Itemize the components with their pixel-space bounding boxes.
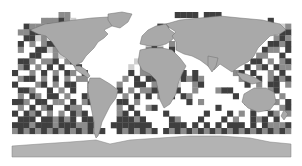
ocean-grid-cell [70, 122, 76, 128]
ocean-grid-cell [186, 93, 192, 99]
ocean-grid-cell [192, 122, 198, 128]
ocean-grid-cell [146, 128, 152, 134]
ocean-grid-cell [233, 122, 239, 128]
ocean-grid-cell [210, 128, 216, 134]
ocean-grid-cell [146, 105, 152, 111]
ocean-grid-cell [186, 99, 192, 105]
ocean-grid-cell [47, 122, 53, 128]
ocean-grid-cell [285, 24, 291, 30]
ocean-grid-cell [24, 111, 30, 117]
ocean-grid-cell [47, 128, 53, 134]
ocean-grid-cell [192, 70, 198, 76]
ocean-grid-cell [24, 116, 30, 122]
ocean-grid-cell [47, 111, 53, 117]
ocean-grid-cell [274, 122, 280, 128]
ocean-grid-cell [285, 122, 291, 128]
ocean-grid-cell [128, 70, 134, 76]
ocean-grid-cell [279, 93, 285, 99]
ocean-grid-cell [279, 64, 285, 70]
ocean-grid-cell [53, 122, 59, 128]
ocean-grid-cell [24, 35, 30, 41]
ocean-grid-cell [256, 64, 262, 70]
ocean-grid-cell [53, 58, 59, 64]
ocean-grid-cell [262, 116, 268, 122]
ocean-grid-cell [262, 64, 268, 70]
ocean-grid-cell [256, 53, 262, 59]
ocean-grid-cell [134, 82, 140, 88]
ocean-grid-cell [198, 82, 204, 88]
ocean-grid-cell [134, 116, 140, 122]
ocean-grid-cell [76, 111, 82, 117]
ocean-grid-cell [70, 111, 76, 117]
ocean-grid-cell [181, 122, 187, 128]
ocean-grid-cell [285, 76, 291, 82]
ocean-grid-cell [146, 76, 152, 82]
ocean-grid-cell [175, 122, 181, 128]
ocean-grid-cell [169, 116, 175, 122]
ocean-grid-cell [47, 47, 53, 53]
ocean-grid-cell [47, 93, 53, 99]
ocean-grid-cell [53, 53, 59, 59]
ocean-grid-cell [35, 128, 41, 134]
ocean-grid-cell [227, 111, 233, 117]
ocean-grid-cell [181, 128, 187, 134]
ocean-grid-cell [140, 82, 146, 88]
ocean-grid-cell [215, 122, 221, 128]
ocean-grid-cell [64, 128, 70, 134]
ocean-grid-cell [29, 35, 35, 41]
ocean-grid-cell [117, 82, 123, 88]
ocean-grid-cell [41, 70, 47, 76]
ocean-grid-cell [169, 41, 175, 47]
ocean-grid-cell [122, 128, 128, 134]
ocean-grid-cell [274, 116, 280, 122]
ocean-grid-cell [128, 116, 134, 122]
ocean-grid-cell [41, 41, 47, 47]
ocean-grid-cell [250, 116, 256, 122]
ocean-grid-cell [279, 105, 285, 111]
ocean-grid-cell [59, 128, 65, 134]
ocean-grid-cell [29, 105, 35, 111]
ocean-grid-cell [134, 93, 140, 99]
ocean-grid-cell [35, 53, 41, 59]
ocean-grid-cell [198, 76, 204, 82]
ocean-grid-cell [128, 87, 134, 93]
ocean-grid-cell [47, 105, 53, 111]
ocean-grid-cell [29, 70, 35, 76]
ocean-grid-cell [35, 111, 41, 117]
ocean-grid-cell [250, 122, 256, 128]
ocean-grid-cell [262, 122, 268, 128]
ocean-grid-cell [88, 122, 94, 128]
ocean-grid-cell [29, 58, 35, 64]
ocean-grid-cell [88, 116, 94, 122]
ocean-grid-cell [274, 64, 280, 70]
ocean-grid-cell [146, 87, 152, 93]
ocean-grid-cell [152, 87, 158, 93]
ocean-grid-cell [111, 122, 117, 128]
ocean-grid-cell [285, 99, 291, 105]
ocean-grid-cell [279, 76, 285, 82]
ocean-grid-cell [285, 29, 291, 35]
ocean-grid-cell [215, 87, 221, 93]
ocean-grid-cell [227, 128, 233, 134]
ocean-grid-cell [279, 128, 285, 134]
ocean-grid-cell [82, 116, 88, 122]
ocean-grid-cell [41, 47, 47, 53]
ocean-grid-cell [59, 12, 65, 18]
ocean-grid-cell [163, 111, 169, 117]
ocean-grid-cell [53, 93, 59, 99]
ocean-grid-cell [198, 99, 204, 105]
ocean-grid-cell [204, 111, 210, 117]
ocean-grid-cell [221, 128, 227, 134]
ocean-grid-cell [268, 41, 274, 47]
ocean-grid-cell [53, 70, 59, 76]
ocean-grid-cell [262, 53, 268, 59]
ocean-grid-cell [41, 58, 47, 64]
ocean-grid-cell [12, 82, 18, 88]
ocean-grid-cell [53, 82, 59, 88]
ocean-grid-cell [285, 58, 291, 64]
ocean-grid-cell [256, 128, 262, 134]
ocean-grid-cell [64, 122, 70, 128]
ocean-grid-cell [279, 58, 285, 64]
ocean-grid-cell [285, 35, 291, 41]
ocean-grid-cell [239, 111, 245, 117]
